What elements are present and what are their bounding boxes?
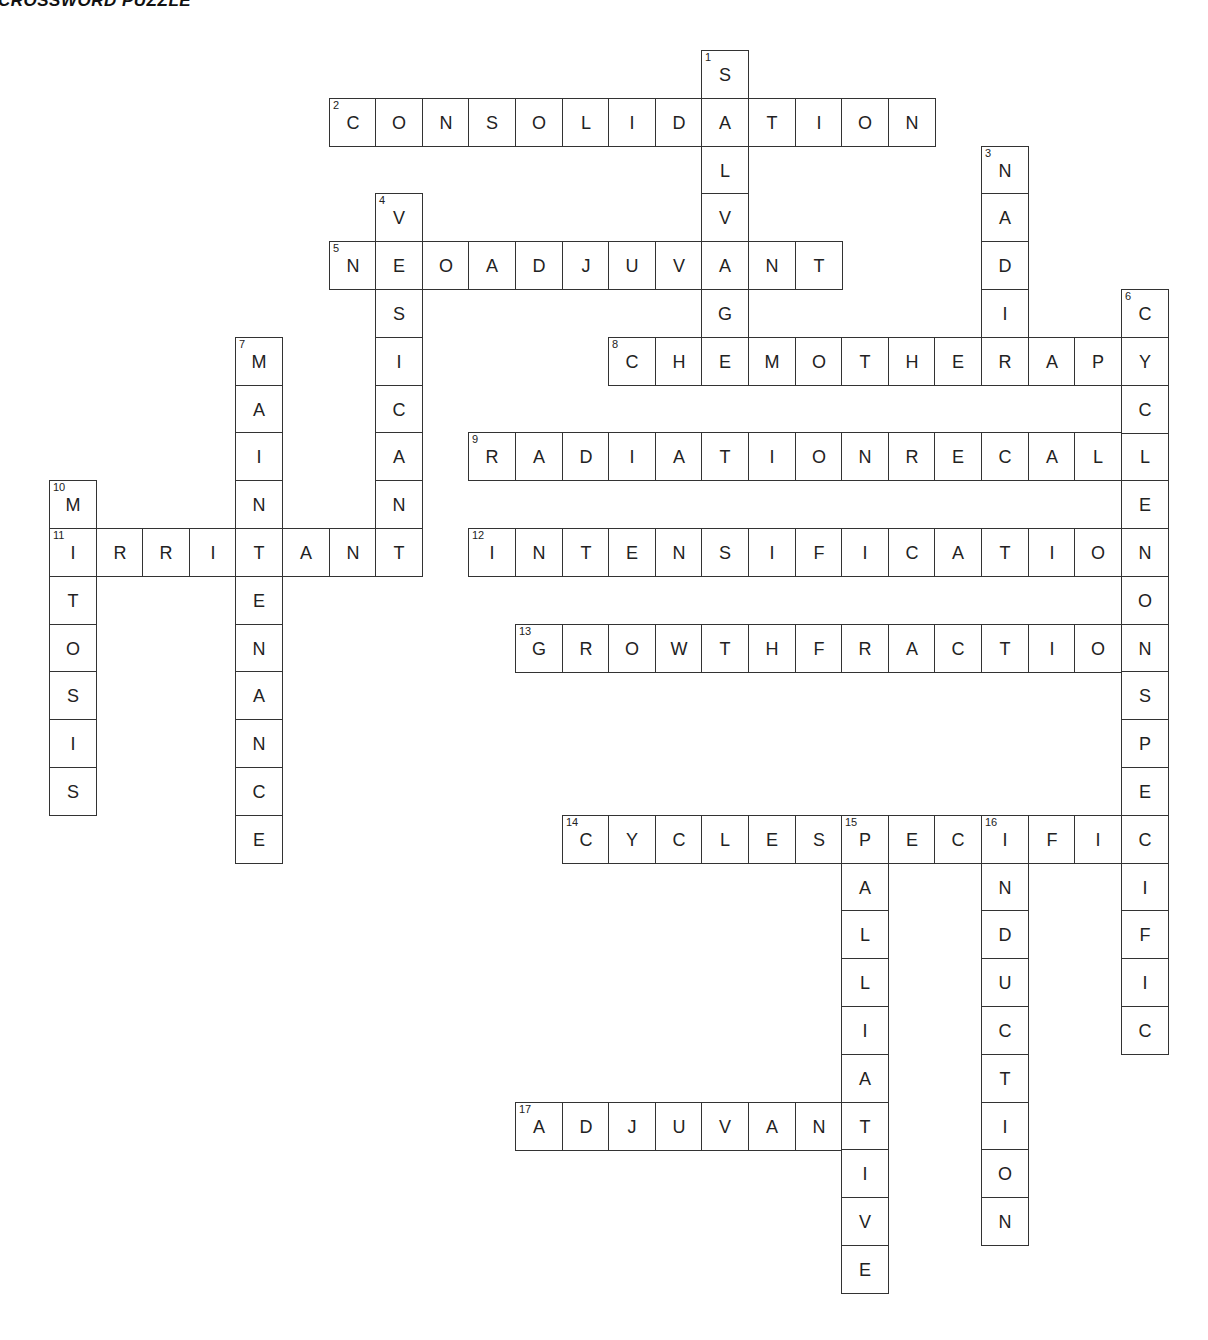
crossword-cell[interactable]: R <box>142 528 190 577</box>
crossword-cell[interactable]: U <box>981 958 1029 1007</box>
crossword-cell[interactable]: 14C <box>562 815 610 864</box>
crossword-cell[interactable]: I <box>981 289 1029 338</box>
crossword-cell[interactable]: A <box>841 1054 889 1103</box>
crossword-cell[interactable]: C <box>981 1006 1029 1055</box>
crossword-cell[interactable]: T <box>981 624 1029 673</box>
crossword-cell[interactable]: F <box>1028 815 1076 864</box>
crossword-cell[interactable]: S <box>1121 671 1169 720</box>
crossword-cell[interactable]: I <box>841 1149 889 1198</box>
crossword-cell[interactable]: I <box>748 432 796 481</box>
crossword-cell[interactable]: 16I <box>981 815 1029 864</box>
crossword-cell[interactable]: C <box>655 815 703 864</box>
crossword-cell[interactable]: S <box>375 289 423 338</box>
crossword-cell[interactable]: N <box>795 1102 843 1151</box>
crossword-cell[interactable]: C <box>981 432 1029 481</box>
crossword-cell[interactable]: H <box>748 624 796 673</box>
crossword-cell[interactable]: S <box>468 98 516 147</box>
crossword-cell[interactable]: E <box>235 576 283 625</box>
crossword-cell[interactable]: D <box>981 241 1029 290</box>
crossword-cell[interactable]: N <box>841 432 889 481</box>
crossword-cell[interactable]: N <box>888 98 936 147</box>
crossword-cell[interactable]: T <box>701 624 749 673</box>
crossword-cell[interactable]: O <box>515 98 563 147</box>
crossword-cell[interactable]: E <box>934 432 982 481</box>
crossword-cell[interactable]: O <box>375 98 423 147</box>
crossword-cell[interactable]: I <box>608 432 656 481</box>
crossword-cell[interactable]: I <box>748 528 796 577</box>
crossword-cell[interactable]: O <box>1121 576 1169 625</box>
crossword-cell[interactable]: P <box>1121 719 1169 768</box>
crossword-cell[interactable]: O <box>795 337 843 386</box>
crossword-cell[interactable]: V <box>701 193 749 242</box>
crossword-cell[interactable]: N <box>981 1197 1029 1246</box>
crossword-cell[interactable]: 5N <box>329 241 377 290</box>
crossword-cell[interactable]: C <box>235 767 283 816</box>
crossword-cell[interactable]: H <box>888 337 936 386</box>
crossword-cell[interactable]: T <box>375 528 423 577</box>
crossword-cell[interactable]: A <box>515 432 563 481</box>
crossword-cell[interactable]: L <box>841 910 889 959</box>
crossword-cell[interactable]: C <box>934 815 982 864</box>
crossword-cell[interactable]: L <box>562 98 610 147</box>
crossword-cell[interactable]: I <box>1121 863 1169 912</box>
crossword-cell[interactable]: D <box>515 241 563 290</box>
crossword-cell[interactable]: E <box>235 815 283 864</box>
crossword-cell[interactable]: F <box>1121 910 1169 959</box>
crossword-cell[interactable]: 12I <box>468 528 516 577</box>
crossword-cell[interactable]: T <box>701 432 749 481</box>
crossword-cell[interactable]: N <box>1121 528 1169 577</box>
crossword-cell[interactable]: S <box>701 528 749 577</box>
crossword-cell[interactable]: A <box>981 193 1029 242</box>
crossword-cell[interactable]: A <box>468 241 516 290</box>
crossword-cell[interactable]: A <box>655 432 703 481</box>
crossword-cell[interactable]: Y <box>608 815 656 864</box>
crossword-cell[interactable]: N <box>748 241 796 290</box>
crossword-cell[interactable]: I <box>1121 958 1169 1007</box>
crossword-cell[interactable]: C <box>888 528 936 577</box>
crossword-cell[interactable]: O <box>1074 624 1122 673</box>
crossword-cell[interactable]: D <box>562 1102 610 1151</box>
crossword-cell[interactable]: D <box>981 910 1029 959</box>
crossword-cell[interactable]: A <box>375 432 423 481</box>
crossword-cell[interactable]: N <box>235 624 283 673</box>
crossword-cell[interactable]: O <box>49 624 97 673</box>
crossword-cell[interactable]: I <box>1028 624 1076 673</box>
crossword-cell[interactable]: J <box>608 1102 656 1151</box>
crossword-cell[interactable]: A <box>841 863 889 912</box>
crossword-cell[interactable]: N <box>422 98 470 147</box>
crossword-cell[interactable]: 10M <box>49 480 97 529</box>
crossword-cell[interactable]: T <box>795 241 843 290</box>
crossword-cell[interactable]: 3N <box>981 146 1029 195</box>
crossword-cell[interactable]: P <box>1074 337 1122 386</box>
crossword-cell[interactable]: F <box>795 528 843 577</box>
crossword-cell[interactable]: D <box>562 432 610 481</box>
crossword-cell[interactable]: 17A <box>515 1102 563 1151</box>
crossword-cell[interactable]: O <box>981 1149 1029 1198</box>
crossword-cell[interactable]: V <box>655 241 703 290</box>
crossword-cell[interactable]: N <box>981 863 1029 912</box>
crossword-cell[interactable]: R <box>562 624 610 673</box>
crossword-cell[interactable]: 7M <box>235 337 283 386</box>
crossword-cell[interactable]: C <box>1121 1006 1169 1055</box>
crossword-cell[interactable]: E <box>888 815 936 864</box>
crossword-cell[interactable]: 13G <box>515 624 563 673</box>
crossword-cell[interactable]: T <box>841 337 889 386</box>
crossword-cell[interactable]: U <box>608 241 656 290</box>
crossword-cell[interactable]: R <box>981 337 1029 386</box>
crossword-cell[interactable]: E <box>841 1245 889 1294</box>
crossword-cell[interactable]: E <box>701 337 749 386</box>
crossword-cell[interactable]: C <box>375 385 423 434</box>
crossword-cell[interactable]: O <box>1074 528 1122 577</box>
crossword-cell[interactable]: L <box>701 815 749 864</box>
crossword-cell[interactable]: E <box>1121 480 1169 529</box>
crossword-cell[interactable]: E <box>375 241 423 290</box>
crossword-cell[interactable]: N <box>375 480 423 529</box>
crossword-cell[interactable]: C <box>1121 385 1169 434</box>
crossword-cell[interactable]: G <box>701 289 749 338</box>
crossword-cell[interactable]: C <box>934 624 982 673</box>
crossword-cell[interactable]: 11I <box>49 528 97 577</box>
crossword-cell[interactable]: F <box>795 624 843 673</box>
crossword-cell[interactable]: L <box>1121 432 1169 481</box>
crossword-cell[interactable]: R <box>841 624 889 673</box>
crossword-cell[interactable]: A <box>748 1102 796 1151</box>
